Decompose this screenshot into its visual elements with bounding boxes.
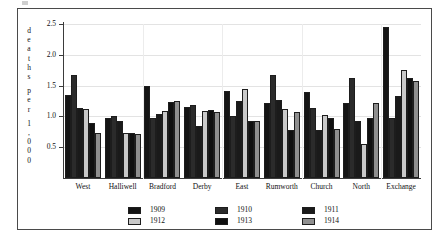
y-tick-label: 2.5 bbox=[47, 19, 56, 28]
legend-swatch bbox=[302, 218, 315, 225]
y-tick-label: 1.5 bbox=[47, 81, 56, 90]
legend-label: 1913 bbox=[237, 216, 252, 225]
plot-inner: 0.51.01.52.02.5 bbox=[63, 24, 421, 179]
legend-swatch bbox=[215, 218, 228, 225]
scan-artifact bbox=[22, 1, 28, 5]
legend-label: 1914 bbox=[324, 216, 339, 225]
bar-group bbox=[224, 24, 260, 178]
x-tick-label: North bbox=[341, 182, 381, 191]
x-tick-label: Halliwell bbox=[103, 182, 143, 191]
y-tick: 2.5 bbox=[59, 24, 64, 25]
x-tick-label: Derby bbox=[182, 182, 222, 191]
legend-label: 1910 bbox=[237, 205, 252, 214]
legend-swatch bbox=[215, 207, 228, 214]
y-tick: 2.0 bbox=[59, 55, 64, 56]
legend-swatch bbox=[128, 207, 141, 214]
y-tick: 1.5 bbox=[59, 86, 64, 87]
plot-area: 0.51.01.52.02.5 bbox=[63, 24, 421, 179]
x-axis-line bbox=[63, 178, 421, 179]
bar-group bbox=[184, 24, 220, 178]
legend-swatch bbox=[302, 207, 315, 214]
x-tick-label: West bbox=[63, 182, 103, 191]
bar bbox=[373, 103, 379, 178]
legend-row-2: 191219131914 bbox=[128, 217, 378, 227]
bar bbox=[413, 81, 419, 178]
bar bbox=[135, 134, 141, 178]
chart-figure: deathsper1,000 0.51.01.52.02.5 WestHalli… bbox=[0, 0, 438, 234]
bar bbox=[254, 121, 260, 178]
bar bbox=[174, 101, 180, 178]
bar-group bbox=[264, 24, 300, 178]
x-tick-label: Bradford bbox=[143, 182, 183, 191]
legend-label: 1909 bbox=[150, 205, 165, 214]
bar bbox=[294, 112, 300, 178]
x-tick-label: East bbox=[222, 182, 262, 191]
legend-label: 1912 bbox=[150, 216, 165, 225]
legend-swatch bbox=[128, 218, 141, 225]
bar-group bbox=[144, 24, 180, 178]
y-axis-line bbox=[63, 22, 64, 179]
x-tick-label: Church bbox=[302, 182, 342, 191]
x-tick-label: Rumworth bbox=[262, 182, 302, 191]
legend-label: 1911 bbox=[324, 205, 339, 214]
y-tick-label: 2.0 bbox=[47, 50, 56, 59]
y-tick: 1.0 bbox=[59, 116, 64, 117]
gridline-x bbox=[381, 24, 382, 179]
legend-row-1: 190919101911 bbox=[128, 206, 378, 216]
y-tick: 0.5 bbox=[59, 147, 64, 148]
x-tick-label: Exchange bbox=[381, 182, 421, 191]
bar-group bbox=[304, 24, 340, 178]
y-axis-label: deathsper1,000 bbox=[23, 26, 35, 165]
bar-group bbox=[383, 24, 419, 178]
y-tick-label: 0.5 bbox=[47, 142, 56, 151]
bar bbox=[95, 133, 101, 178]
bar bbox=[334, 129, 340, 178]
y-tick-label: 1.0 bbox=[47, 111, 56, 120]
bar-group bbox=[65, 24, 101, 178]
gridline-x bbox=[222, 24, 223, 179]
bar bbox=[214, 112, 220, 178]
bar-group bbox=[343, 24, 379, 178]
bar-group bbox=[105, 24, 141, 178]
